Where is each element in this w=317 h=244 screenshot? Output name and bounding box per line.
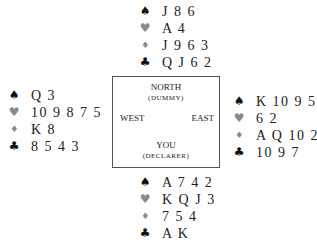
north-clubs: Q J 6 2 bbox=[162, 54, 213, 71]
south-hearts-row: ♥ K Q J 3 bbox=[138, 191, 216, 208]
south-diamonds-row: ♦ 7 5 4 bbox=[138, 208, 216, 225]
west-hand: ♠ Q 3 ♥ 10 9 8 7 5 ♦ K 8 ♣ 8 5 4 3 bbox=[7, 87, 102, 155]
north-hearts-row: ♥ A 4 bbox=[138, 20, 213, 37]
west-diamonds: K 8 bbox=[31, 121, 56, 138]
north-spades: J 8 6 bbox=[162, 3, 196, 20]
east-hearts-row: ♥ 6 2 bbox=[232, 110, 317, 127]
south-spades-row: ♠ A 7 4 2 bbox=[138, 174, 216, 191]
south-clubs: A K bbox=[162, 225, 189, 242]
south-hearts: K Q J 3 bbox=[162, 191, 216, 208]
club-icon: ♣ bbox=[232, 144, 248, 161]
diamond-icon: ♦ bbox=[7, 121, 23, 138]
spade-icon: ♠ bbox=[7, 87, 23, 104]
west-diamonds-row: ♦ K 8 bbox=[7, 121, 102, 138]
west-hearts: 10 9 8 7 5 bbox=[31, 104, 102, 121]
south-clubs-row: ♣ A K bbox=[138, 225, 216, 242]
diamond-icon: ♦ bbox=[232, 127, 248, 144]
south-spades: A 7 4 2 bbox=[162, 174, 213, 191]
seat-south: YOU (DECLARER) bbox=[113, 140, 219, 162]
club-icon: ♣ bbox=[138, 225, 154, 242]
west-spades: Q 3 bbox=[31, 87, 56, 104]
heart-icon: ♥ bbox=[232, 110, 248, 127]
south-role: (DECLARER) bbox=[113, 151, 219, 162]
east-diamonds: A Q 10 2 bbox=[256, 127, 317, 144]
south-label: YOU bbox=[113, 140, 219, 151]
spade-icon: ♠ bbox=[138, 174, 154, 191]
west-hearts-row: ♥ 10 9 8 7 5 bbox=[7, 104, 102, 121]
south-diamonds: 7 5 4 bbox=[162, 208, 198, 225]
west-spades-row: ♠ Q 3 bbox=[7, 87, 102, 104]
heart-icon: ♥ bbox=[138, 20, 154, 37]
east-hand: ♠ K 10 9 5 ♥ 6 2 ♦ A Q 10 2 ♣ 10 9 7 bbox=[232, 93, 317, 161]
club-icon: ♣ bbox=[138, 54, 154, 71]
spade-icon: ♠ bbox=[138, 3, 154, 20]
diamond-icon: ♦ bbox=[138, 208, 154, 225]
north-hand: ♠ J 8 6 ♥ A 4 ♦ J 9 6 3 ♣ Q J 6 2 bbox=[138, 3, 213, 71]
north-hearts: A 4 bbox=[162, 20, 186, 37]
heart-icon: ♥ bbox=[7, 104, 23, 121]
east-clubs: 10 9 7 bbox=[256, 144, 300, 161]
north-label: NORTH bbox=[113, 82, 219, 93]
heart-icon: ♥ bbox=[138, 191, 154, 208]
north-role: (DUMMY) bbox=[113, 93, 219, 104]
east-clubs-row: ♣ 10 9 7 bbox=[232, 144, 317, 161]
east-spades: K 10 9 5 bbox=[256, 93, 317, 110]
west-label: WEST bbox=[120, 113, 145, 124]
north-diamonds-row: ♦ J 9 6 3 bbox=[138, 37, 213, 54]
north-diamonds: J 9 6 3 bbox=[162, 37, 209, 54]
east-spades-row: ♠ K 10 9 5 bbox=[232, 93, 317, 110]
table-compass-box: NORTH (DUMMY) WEST EAST YOU (DECLARER) bbox=[112, 76, 220, 168]
west-clubs: 8 5 4 3 bbox=[31, 138, 80, 155]
south-hand: ♠ A 7 4 2 ♥ K Q J 3 ♦ 7 5 4 ♣ A K bbox=[138, 174, 216, 242]
club-icon: ♣ bbox=[7, 138, 23, 155]
seat-north: NORTH (DUMMY) bbox=[113, 82, 219, 104]
east-label: EAST bbox=[192, 113, 215, 124]
north-clubs-row: ♣ Q J 6 2 bbox=[138, 54, 213, 71]
east-hearts: 6 2 bbox=[256, 110, 278, 127]
east-diamonds-row: ♦ A Q 10 2 bbox=[232, 127, 317, 144]
diamond-icon: ♦ bbox=[138, 37, 154, 54]
north-spades-row: ♠ J 8 6 bbox=[138, 3, 213, 20]
spade-icon: ♠ bbox=[232, 93, 248, 110]
west-clubs-row: ♣ 8 5 4 3 bbox=[7, 138, 102, 155]
